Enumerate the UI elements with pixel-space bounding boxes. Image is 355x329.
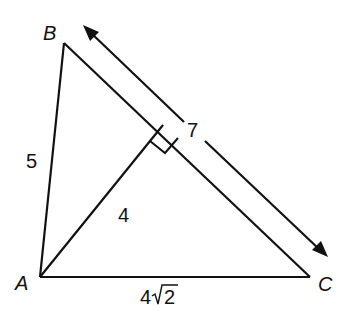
altitude-line <box>40 125 163 277</box>
altitude-length: 4 <box>118 204 129 226</box>
right-angle-marker <box>150 138 178 153</box>
vertex-label-b: B <box>43 22 56 44</box>
vertex-label-a: A <box>14 272 28 294</box>
bc-length-arrow-lower <box>205 141 320 250</box>
side-ac-length: 4 2 <box>140 285 178 308</box>
side-bc-length: 7 <box>187 119 198 141</box>
side-ac-coefficient: 4 <box>140 286 151 308</box>
vertex-label-c: C <box>318 273 333 295</box>
bc-length-arrow-upper <box>90 32 184 122</box>
side-bc <box>64 43 310 277</box>
triangle-diagram: B A C 5 7 4 4 2 <box>0 0 355 329</box>
side-ab <box>40 43 64 277</box>
side-ab-length: 5 <box>26 150 37 172</box>
side-ac-radicand: 2 <box>164 286 175 308</box>
